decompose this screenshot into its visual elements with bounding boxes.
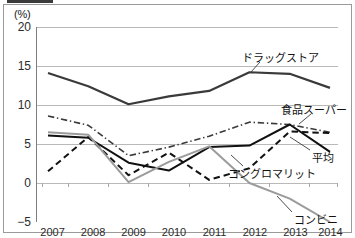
- series-label: コンビニ: [294, 214, 338, 226]
- x-tick-label: 2010: [162, 227, 186, 238]
- y-tick-label: −5: [17, 216, 36, 228]
- x-tick-label: 2011: [203, 227, 227, 238]
- y-tick-label: 10: [18, 99, 36, 111]
- series-label: 食品スーパー: [281, 104, 347, 116]
- y-axis-unit-label: (%): [14, 9, 31, 20]
- y-tick-label: 0: [24, 177, 36, 189]
- y-tick-label: 5: [24, 138, 36, 150]
- top-rule-decoration: [7, 0, 53, 3]
- x-tick-label: 2007: [40, 227, 64, 238]
- y-tick-label: 15: [18, 60, 36, 72]
- series-lines: [48, 72, 330, 222]
- series-line: [48, 125, 330, 171]
- x-tick-label: 2008: [81, 227, 105, 238]
- series-line: [48, 72, 330, 104]
- x-tick-label: 2014: [318, 227, 342, 238]
- series-label: コングロマリット: [228, 168, 316, 180]
- series-label: ドラッグストア: [242, 52, 319, 64]
- x-tick-label: 2009: [121, 227, 145, 238]
- x-tick-label: 2013: [283, 227, 307, 238]
- y-tick-label: 20: [18, 21, 36, 33]
- series-label: 平均: [312, 152, 334, 164]
- chart-figure: (%) 20 15 10 5 0 −5 2007 2008 2009 2010 …: [0, 0, 355, 238]
- x-tick-label: 2012: [243, 227, 267, 238]
